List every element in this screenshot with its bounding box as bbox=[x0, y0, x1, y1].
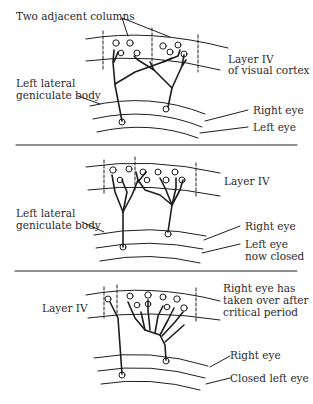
label-lgn-line2: geniculate body bbox=[16, 89, 101, 101]
label-closed-left-eye: Closed left eye bbox=[230, 372, 309, 384]
neuron-somas bbox=[113, 40, 187, 125]
panel-2-left-eye-closed bbox=[82, 157, 240, 263]
ocular-dominance-diagram: Two adjacent columns Layer IV of visual … bbox=[0, 0, 313, 404]
label-right-eye: Right eye bbox=[245, 220, 296, 232]
eye-pointers bbox=[200, 110, 248, 133]
panel-3-after-critical-period bbox=[86, 285, 230, 390]
panel-1-normal bbox=[78, 18, 248, 138]
label-lgn-line1: Left lateral bbox=[16, 77, 75, 89]
column-boundaries bbox=[103, 28, 198, 72]
label-right-eye: Right eye bbox=[230, 349, 281, 361]
eye-pointers bbox=[202, 226, 240, 253]
label-left-eye: Left eye bbox=[245, 238, 288, 250]
cortex-layer-iv-band bbox=[86, 163, 220, 196]
axon-left-eye-retracted bbox=[110, 302, 122, 374]
lgn-layers bbox=[78, 96, 205, 138]
axon-right-eye-expanded bbox=[128, 300, 184, 360]
label-now-closed: now closed bbox=[245, 250, 304, 262]
label-lgn-line1: Left lateral bbox=[16, 207, 75, 219]
label-lgn-line2: geniculate body bbox=[16, 219, 101, 231]
cortex-layer-iv-band bbox=[86, 290, 220, 320]
eye-pointers bbox=[206, 356, 230, 384]
label-layer-iv: Layer IV bbox=[42, 302, 87, 314]
lgn-layers bbox=[94, 354, 208, 390]
label-note-line3: critical period bbox=[223, 306, 298, 318]
axon-right-eye bbox=[138, 178, 183, 232]
label-layer-iv: Layer IV bbox=[224, 175, 269, 187]
label-note-line2: taken over after bbox=[223, 294, 309, 306]
label-visual-cortex: of visual cortex bbox=[228, 64, 310, 76]
label-left-eye: Left eye bbox=[253, 121, 296, 133]
label-two-adjacent-columns: Two adjacent columns bbox=[16, 10, 135, 22]
label-note-line1: Right eye has bbox=[223, 282, 295, 294]
label-right-eye: Right eye bbox=[253, 104, 304, 116]
